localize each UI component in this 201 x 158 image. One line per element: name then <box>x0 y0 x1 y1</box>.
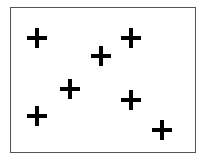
plus-icon <box>60 79 80 99</box>
plus-icon <box>27 106 47 126</box>
plus-icon <box>121 28 141 48</box>
plus-icon <box>121 90 141 110</box>
plus-icon <box>152 120 172 140</box>
plus-icon <box>91 46 111 66</box>
plus-icon <box>27 28 47 48</box>
